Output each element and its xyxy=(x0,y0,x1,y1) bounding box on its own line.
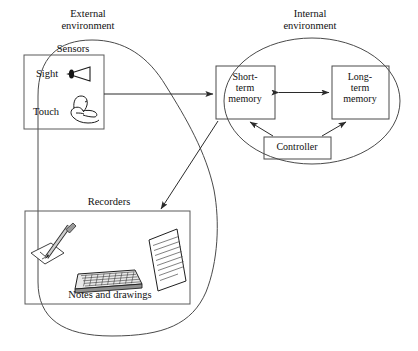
long-term-memory-label: Long- term memory xyxy=(334,71,386,105)
hand-icon xyxy=(71,96,99,123)
sensors-box xyxy=(24,55,104,129)
sensors-label: Sensors xyxy=(40,43,106,55)
eye-icon xyxy=(68,67,90,81)
connector-stm-to-recorders xyxy=(161,121,218,209)
external-environment-label: External environment xyxy=(36,8,140,32)
connector-controller-to-stm xyxy=(250,122,273,136)
sight-label: Sight xyxy=(36,68,68,80)
diagram-canvas: External environment Internal environmen… xyxy=(0,0,418,351)
internal-environment-label: Internal environment xyxy=(250,8,370,32)
short-term-memory-label: Short- term memory xyxy=(218,71,272,105)
controller-label: Controller xyxy=(266,141,328,152)
notes-and-drawings-caption: Notes and drawings xyxy=(35,289,185,301)
connector-controller-to-ltm xyxy=(322,122,346,136)
recorders-label: Recorders xyxy=(68,196,150,208)
lined-document-icon xyxy=(149,229,186,291)
touch-label: Touch xyxy=(33,106,69,118)
